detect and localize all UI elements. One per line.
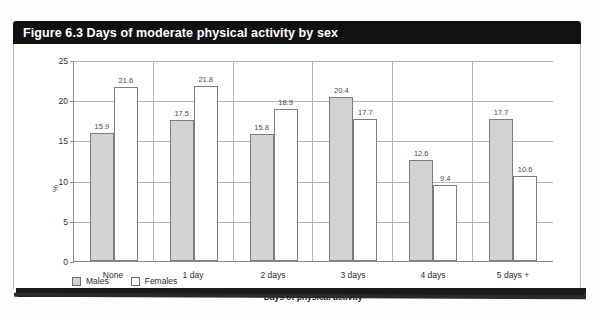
y-axis-tick-label: 20 [59,96,68,106]
legend-item-females: Females [131,276,178,286]
bar-group: 17.521.8 [154,61,234,261]
legend-label: Males [86,276,109,286]
legend-swatch [131,277,140,286]
y-axis-tick-label: 15 [59,136,68,146]
y-axis-tick-mark [70,262,74,263]
bar-females: 21.6 [114,87,138,261]
bar-value-label: 17.5 [174,109,189,118]
y-axis-tick-label: 0 [63,257,68,267]
bar-value-label: 18.9 [278,98,293,107]
bar-males: 20.4 [329,97,353,261]
bar-value-label: 21.6 [119,76,134,85]
y-axis-tick-label: 10 [59,177,68,187]
bar-males: 15.8 [250,134,274,261]
bar-value-label: 21.8 [198,75,213,84]
legend-label: Females [145,276,178,286]
legend-item-males: Males [72,276,109,286]
chart-legend: MalesFemales [72,276,177,286]
x-axis-tick-label: 4 days [393,270,473,280]
bar-groups: 15.921.617.521.815.818.920.417.712.69.41… [74,61,553,261]
x-axis-tick-label: 5 days + [473,270,553,280]
bar-value-label: 17.7 [358,108,373,117]
figure-title-bar: Figure 6.3 Days of moderate physical act… [13,21,581,44]
bar-group: 12.69.4 [393,61,473,261]
x-axis-tick-label: 3 days [313,270,393,280]
y-axis-tick-label: 5 [63,217,68,227]
bar-value-label: 17.7 [494,108,509,117]
x-axis-tick-label: 2 days [233,270,313,280]
bar-females: 18.9 [274,109,298,261]
bar-group: 17.710.6 [473,61,553,261]
bar-group: 15.921.6 [74,61,154,261]
figure-page: Figure 6.3 Days of moderate physical act… [0,0,598,318]
chart-area: % 0510152025 15.921.617.521.815.818.920.… [13,44,581,289]
plot-region: 0510152025 15.921.617.521.815.818.920.41… [73,61,553,262]
bar-value-label: 12.6 [414,149,429,158]
bar-males: 12.6 [409,160,433,261]
bar-females: 9.4 [433,185,457,261]
bar-value-label: 15.8 [254,123,269,132]
bar-value-label: 9.4 [440,174,450,183]
bar-females: 10.6 [513,176,537,261]
bar-group: 15.818.9 [234,61,314,261]
y-axis-tick-label: 25 [59,56,68,66]
bar-value-label: 15.9 [95,122,110,131]
bar-females: 21.8 [194,86,218,261]
bar-males: 15.9 [90,133,114,261]
bar-males: 17.5 [170,120,194,261]
legend-swatch [72,277,81,286]
bar-females: 17.7 [353,119,377,261]
page-title: Figure 6.3 Days of moderate physical act… [13,26,338,40]
figure-bottom-edge [16,288,586,297]
bar-value-label: 20.4 [334,86,349,95]
bar-value-label: 10.6 [518,165,533,174]
bar-group: 20.417.7 [313,61,393,261]
bar-males: 17.7 [489,119,513,261]
